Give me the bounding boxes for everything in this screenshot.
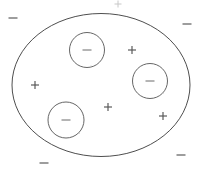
inside-plus-charge-4: [159, 112, 167, 120]
outside-charges-group: [9, 18, 192, 163]
faint-mark-1: [115, 1, 122, 8]
speck: [90, 65, 91, 66]
speck: [78, 132, 80, 134]
faint-marks-group: [115, 1, 122, 8]
inside-plus-charge-3: [104, 103, 112, 111]
inside-plus-charge-2: [128, 46, 136, 54]
inner-charge-circle-2: [133, 64, 168, 99]
inside-plus-charge-1: [31, 81, 39, 89]
inner-circles-group: [48, 33, 168, 139]
diagram-canvas: [0, 0, 202, 171]
scan-specks-group: [78, 65, 164, 133]
inner-charge-circle-1: [70, 33, 105, 68]
speck: [162, 92, 163, 93]
charge-diagram: [0, 0, 202, 171]
